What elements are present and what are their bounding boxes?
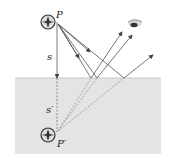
label-image-distance: s′ (46, 104, 54, 115)
mirror-region (15, 78, 161, 154)
plane-mirror-diagram: P P′ s s′ (0, 0, 171, 168)
incident-rays (58, 24, 124, 78)
label-object: P (55, 9, 63, 20)
object-point-P (41, 15, 55, 29)
eye-icon (128, 19, 142, 27)
label-object-distance: s (47, 51, 52, 62)
label-image: P′ (56, 138, 67, 149)
image-point-P-prime (41, 128, 55, 142)
reflected-rays (91, 32, 153, 78)
